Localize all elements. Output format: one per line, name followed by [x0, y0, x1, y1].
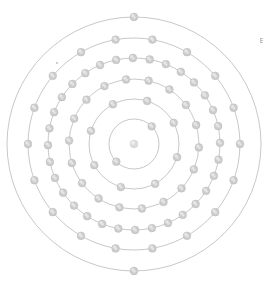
electron-N-2	[44, 141, 52, 149]
electron-O-4	[77, 48, 85, 56]
electron-M-6	[122, 76, 130, 84]
electron-M-15	[138, 205, 146, 213]
electron-N-21	[202, 187, 210, 195]
electron-M-5	[101, 82, 109, 90]
electron-N-9	[112, 56, 120, 64]
electron-M-1	[68, 159, 76, 167]
electron-O-9	[230, 104, 238, 112]
electron-N-16	[209, 106, 217, 114]
electron-O-8	[211, 72, 219, 80]
atom-nucleus	[130, 140, 138, 148]
electron-O-2	[30, 104, 38, 112]
electron-K-2	[148, 122, 156, 130]
electron-M-7	[145, 77, 153, 85]
electron-L-3	[109, 100, 117, 108]
electron-M-4	[83, 96, 91, 104]
electron-N-7	[81, 69, 89, 77]
electron-M-10	[192, 121, 200, 129]
electron-N-17	[214, 122, 222, 130]
electron-N-19	[215, 156, 223, 164]
speck-dot	[56, 62, 58, 64]
electron-P-2	[130, 267, 138, 275]
electron-N-26	[131, 226, 139, 234]
electron-M-3	[70, 115, 78, 123]
electron-N-31	[59, 189, 67, 197]
electron-O-11	[230, 176, 238, 184]
electron-L-1	[90, 161, 98, 169]
electron-N-32	[51, 174, 59, 182]
electron-N-8	[96, 61, 104, 69]
electron-L-5	[170, 119, 178, 127]
electron-O-17	[49, 208, 57, 216]
electron-O-7	[183, 48, 191, 56]
electron-K-1	[112, 158, 120, 166]
electron-O-6	[149, 36, 157, 44]
electron-N-4	[50, 108, 58, 116]
electron-N-30	[70, 202, 78, 210]
electron-N-14	[190, 78, 198, 86]
electron-O-10	[236, 140, 244, 148]
electron-M-8	[166, 86, 174, 94]
electron-N-1	[46, 158, 54, 166]
nucleus-highlight	[131, 141, 135, 145]
electron-P-1	[130, 13, 138, 21]
electron-N-23	[179, 211, 187, 219]
electron-N-5	[58, 93, 66, 101]
electron-L-6	[173, 153, 181, 161]
electron-N-22	[192, 200, 200, 208]
electron-M-11	[195, 144, 203, 152]
bohr-model-canvas	[0, 0, 263, 286]
electron-O-12	[211, 208, 219, 216]
electron-M-13	[178, 184, 186, 192]
electron-M-2	[65, 137, 73, 145]
electron-N-11	[146, 56, 154, 64]
bohr-model-figure: Element 2	[0, 0, 263, 286]
electron-N-13	[177, 68, 185, 76]
electron-M-18	[78, 179, 86, 187]
stray-speck	[56, 62, 58, 64]
electron-N-29	[83, 212, 91, 220]
electron-N-10	[129, 54, 137, 62]
electron-O-18	[30, 176, 38, 184]
electron-N-27	[114, 225, 122, 233]
electron-N-12	[162, 60, 170, 68]
electron-L-4	[143, 97, 151, 105]
electron-L-8	[117, 183, 125, 191]
electron-N-28	[98, 220, 106, 228]
electron-O-3	[49, 72, 57, 80]
electron-M-14	[160, 198, 168, 206]
electron-N-15	[201, 91, 209, 99]
electron-N-25	[148, 224, 156, 232]
electron-L-2	[87, 127, 95, 135]
electron-L-7	[151, 180, 159, 188]
electron-O-5	[112, 36, 120, 44]
electron-M-17	[95, 195, 103, 203]
electron-O-14	[149, 244, 157, 252]
electron-O-15	[112, 244, 120, 252]
electron-N-24	[164, 219, 172, 227]
electron-N-6	[68, 80, 76, 88]
electron-O-16	[77, 232, 85, 240]
electron-O-1	[24, 140, 32, 148]
electron-O-13	[183, 232, 191, 240]
electron-M-9	[182, 101, 190, 109]
electron-M-16	[115, 203, 123, 211]
electron-N-3	[46, 124, 54, 132]
electron-N-18	[216, 139, 224, 147]
electron-M-12	[190, 165, 198, 173]
electron-N-20	[210, 172, 218, 180]
